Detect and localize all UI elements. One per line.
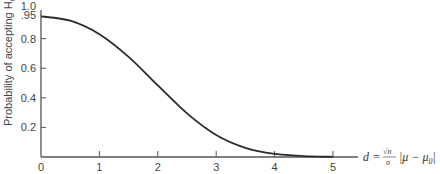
x-label-denominator: σ bbox=[386, 158, 391, 167]
x-label-numerator: √n bbox=[383, 147, 391, 156]
y-tick-label: 0.6 bbox=[21, 62, 36, 74]
y-tick-label: 1.0 bbox=[21, 0, 36, 12]
oc-curve-chart: 0.20.40.60.8.951.0 012345 Probability of… bbox=[0, 0, 440, 174]
x-tick-label: 1 bbox=[96, 161, 102, 173]
y-ticks: 0.20.40.60.8.951.0 bbox=[21, 0, 46, 133]
y-tick-label: 0.8 bbox=[21, 33, 36, 45]
y-tick-label: 0.4 bbox=[21, 92, 36, 104]
x-tick-label: 3 bbox=[213, 161, 219, 173]
x-ticks: 012345 bbox=[38, 151, 336, 173]
x-label-eq: = bbox=[373, 150, 380, 164]
x-tick-label: 4 bbox=[272, 161, 278, 173]
y-axis-label: Probability of accepting H0 bbox=[2, 0, 17, 126]
y-tick-label: 0.2 bbox=[21, 121, 36, 133]
x-label-abs: |μ − μ0| bbox=[399, 150, 436, 166]
x-axis-label: d = √n σ |μ − μ0| bbox=[363, 147, 436, 167]
oc-curve-line bbox=[41, 16, 333, 156]
axes bbox=[41, 10, 358, 157]
x-label-d: d bbox=[363, 150, 370, 164]
x-tick-label: 0 bbox=[38, 161, 44, 173]
x-tick-label: 5 bbox=[330, 161, 336, 173]
x-tick-label: 2 bbox=[155, 161, 161, 173]
